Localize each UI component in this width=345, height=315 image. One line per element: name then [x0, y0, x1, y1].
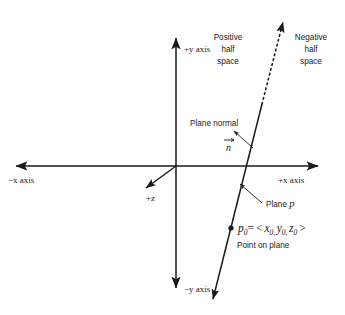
negative-half-space-label-line1: Negative: [295, 33, 328, 42]
point-equation-group: p0=<x0,y0,z0>: [237, 222, 306, 237]
normal-vector-symbol: n: [226, 142, 231, 153]
point-equation-close-bracket: >: [299, 222, 306, 234]
plane-line-solid: [213, 104, 262, 299]
plane-label-group: Plane p: [266, 198, 294, 209]
axis-label-y-negative: −y axis: [184, 284, 211, 294]
plane-normal-group: [234, 131, 253, 148]
point-on-plane-marker: [228, 225, 233, 230]
plane-normal-leader-line: [234, 131, 253, 148]
negative-half-space-label-line2: half: [304, 45, 318, 54]
plane-label-text: Plane: [266, 200, 289, 209]
plane-line-dashed: [262, 22, 283, 104]
positive-half-space-label-line3: space: [217, 57, 239, 66]
negative-half-space-label-line3: space: [300, 57, 322, 66]
positive-half-space-label-line2: half: [221, 45, 235, 54]
axis-group: [16, 38, 318, 288]
plane-label-leader-line: [240, 184, 262, 203]
positive-half-space-label-line1: Positive: [214, 33, 243, 42]
diagram-canvas: −x axis +x axis +y axis −y axis +z Posit…: [0, 0, 345, 315]
plane-label: Plane p: [266, 198, 294, 209]
point-equation-comp1-separator: ,: [286, 228, 288, 237]
plane-label-leader-group: [240, 184, 262, 203]
point-equation: p0=<x0,y0,z0>: [237, 222, 306, 237]
point-equation-comp2-subscript: 0: [293, 228, 297, 237]
plane-label-symbol: p: [288, 198, 294, 209]
plane-diagram-figure: −x axis +x axis +y axis −y axis +z Posit…: [0, 0, 345, 315]
point-equation-comp0-separator: ,: [273, 228, 275, 237]
axis-label-x-negative: −x axis: [8, 175, 35, 185]
point-equation-open-bracket: <: [256, 222, 263, 234]
axis-label-x-positive: +x axis: [278, 175, 305, 185]
axis-label-y-positive: +y axis: [184, 44, 211, 54]
point-on-plane-caption: Point on plane: [237, 241, 290, 250]
plane-normal-label: Plane normal: [190, 119, 238, 128]
point-equation-equals: =: [248, 222, 255, 234]
normal-vector-symbol-group: n: [224, 138, 234, 153]
z-axis-line: [146, 166, 176, 188]
axis-label-z-positive: +z: [146, 193, 155, 203]
